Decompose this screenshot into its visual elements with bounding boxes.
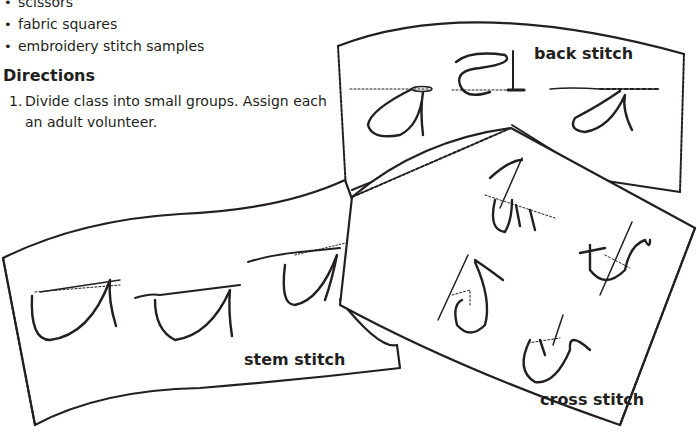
stitch-samples-illustration [0, 0, 697, 438]
stem-stitch-label: stem stitch [244, 350, 345, 369]
cross-stitch-fabric [340, 128, 695, 425]
cross-stitch-label: cross stitch [540, 390, 644, 409]
back-stitch-label: back stitch [534, 44, 633, 63]
